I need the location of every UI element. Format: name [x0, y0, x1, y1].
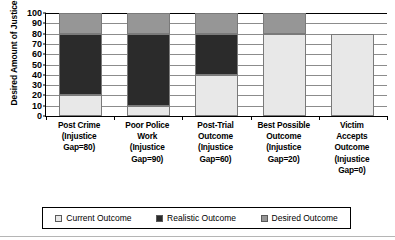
x-axis-label-line: Gap=80)	[45, 142, 113, 153]
bar-segment-current-outcome[interactable]	[127, 106, 170, 116]
bar-column[interactable]	[127, 13, 170, 116]
x-axis-label-line: (Injustice	[45, 131, 113, 142]
x-axis-label: Poor PoliceWork(InjusticeGap=90)	[113, 120, 181, 165]
x-axis-label: Post Crime(InjusticeGap=80)	[45, 120, 113, 154]
bar-segment-desired-outcome[interactable]	[59, 13, 102, 34]
y-tick-label-80: 80	[32, 29, 42, 39]
bar-segment-current-outcome[interactable]	[59, 95, 102, 116]
bar-column[interactable]	[263, 13, 306, 116]
legend-swatch-icon	[156, 215, 163, 222]
legend-item[interactable]: Realistic Outcome	[156, 213, 236, 223]
bar-segment-current-outcome[interactable]	[263, 34, 306, 116]
legend-item[interactable]: Desired Outcome	[261, 213, 338, 223]
y-tick-label-10: 10	[32, 101, 42, 111]
x-axis-label-line: Outcome	[250, 131, 318, 142]
legend-label: Desired Outcome	[272, 213, 338, 223]
x-axis-label-line: Gap=60)	[181, 154, 249, 165]
y-axis-title: Desired Amount of Justice	[9, 0, 19, 113]
bar-column[interactable]	[195, 13, 238, 116]
y-tick-label-0: 0	[37, 111, 42, 121]
x-axis-label-line: Gap=90)	[113, 154, 181, 165]
bar-segment-realistic-outcome[interactable]	[59, 34, 102, 96]
legend-label: Current Outcome	[66, 213, 131, 223]
y-tick-label-60: 60	[32, 49, 42, 59]
x-axis-label-line: Post Crime	[45, 120, 113, 131]
x-axis-label-line: Best Possible	[250, 120, 318, 131]
x-axis-label-line: (Injustice	[181, 142, 249, 153]
y-tick-label-90: 90	[32, 18, 42, 28]
y-tick-label-50: 50	[32, 60, 42, 70]
plot-area: 0102030405060708090100	[45, 13, 387, 117]
y-tick-label-40: 40	[32, 70, 42, 80]
x-axis-label-line: Gap=0)	[318, 165, 386, 176]
y-tick-label-30: 30	[32, 80, 42, 90]
x-axis-label-line: Victim	[318, 120, 386, 131]
bar-segment-desired-outcome[interactable]	[263, 13, 306, 34]
x-axis-label-line: Outcome	[181, 131, 249, 142]
x-tick-mark	[387, 116, 388, 120]
x-axis-label-line: Poor Police	[113, 120, 181, 131]
bar-segment-current-outcome[interactable]	[195, 75, 238, 116]
x-axis-label-line: (Injustice	[250, 142, 318, 153]
x-axis-label-line: (Injustice	[113, 142, 181, 153]
bar-segment-desired-outcome[interactable]	[195, 13, 238, 34]
x-axis-label: Post-TrialOutcome(InjusticeGap=60)	[181, 120, 249, 165]
x-axis-label-line: Outcome	[318, 142, 386, 153]
legend-item[interactable]: Current Outcome	[55, 213, 131, 223]
bar-segment-current-outcome[interactable]	[331, 34, 374, 116]
y-tick-label-70: 70	[32, 39, 42, 49]
bar-segment-realistic-outcome[interactable]	[127, 34, 170, 106]
bar-column[interactable]	[59, 13, 102, 116]
legend-swatch-icon	[261, 215, 268, 222]
x-axis-label-line: Gap=20)	[250, 154, 318, 165]
bars-layer	[46, 13, 387, 116]
legend-label: Realistic Outcome	[167, 213, 236, 223]
x-axis-label-line: Accepts	[318, 131, 386, 142]
legend-swatch-icon	[55, 215, 62, 222]
x-axis-label-line: Post-Trial	[181, 120, 249, 131]
bar-segment-desired-outcome[interactable]	[127, 13, 170, 34]
x-axis-label-line: (Injustice	[318, 154, 386, 165]
stacked-bar-chart: Desired Amount of Justice 01020304050607…	[0, 0, 395, 240]
x-axis-label-line: Work	[113, 131, 181, 142]
bar-column[interactable]	[331, 13, 374, 116]
x-axis-label: Best PossibleOutcome(InjusticeGap=20)	[250, 120, 318, 165]
y-tick-label-100: 100	[27, 8, 42, 18]
x-axis-label: VictimAcceptsOutcome(InjusticeGap=0)	[318, 120, 386, 176]
footer-divider	[0, 236, 395, 237]
bar-segment-realistic-outcome[interactable]	[195, 34, 238, 75]
chart-legend: Current OutcomeRealistic OutcomeDesired …	[42, 207, 351, 229]
y-tick-label-20: 20	[32, 90, 42, 100]
